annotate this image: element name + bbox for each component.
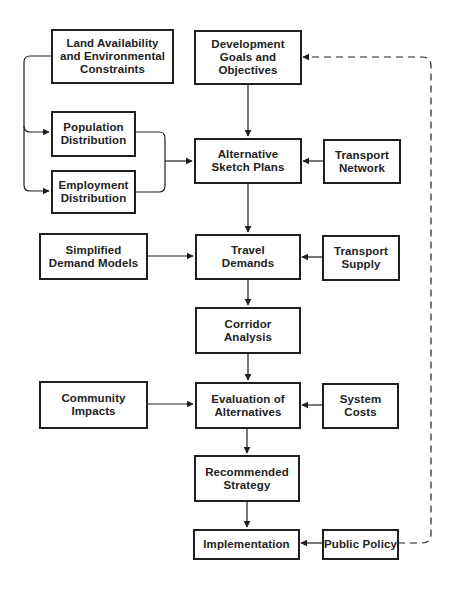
node-label: Land Availability and Environmental Cons… xyxy=(60,37,165,76)
node-transport-network: Transport Network xyxy=(323,139,401,184)
node-label: Development Goals and Objectives xyxy=(211,38,284,77)
node-label: Recommended Strategy xyxy=(205,466,289,492)
node-employment-distribution: Employment Distribution xyxy=(51,170,136,214)
edge-policy-goals-dashed xyxy=(303,57,431,543)
node-public-policy: Public Policy xyxy=(322,529,399,560)
node-label: Travel Demands xyxy=(222,244,274,270)
node-label: Community Impacts xyxy=(61,392,125,418)
edge-land-population xyxy=(24,56,51,132)
node-community-impacts: Community Impacts xyxy=(39,381,148,429)
planning-process-flowchart: Land Availability and Environmental Cons… xyxy=(0,0,453,591)
node-system-costs: System Costs xyxy=(322,383,399,429)
node-transport-supply: Transport Supply xyxy=(322,235,400,281)
node-label: Alternative Sketch Plans xyxy=(212,148,285,174)
node-alternative-sketch-plans: Alternative Sketch Plans xyxy=(194,138,302,184)
node-label: Population Distribution xyxy=(61,121,127,147)
connector-lines xyxy=(0,0,453,591)
edge-land-employment xyxy=(24,126,49,191)
node-evaluation-of-alternatives: Evaluation of Alternatives xyxy=(195,382,301,429)
node-corridor-analysis: Corridor Analysis xyxy=(195,307,301,354)
node-travel-demands: Travel Demands xyxy=(195,234,301,280)
node-label: Implementation xyxy=(203,538,289,551)
node-development-goals: Development Goals and Objectives xyxy=(194,30,302,85)
node-simplified-demand-models: Simplified Demand Models xyxy=(39,233,148,280)
node-label: Transport Network xyxy=(335,149,389,175)
node-label: Corridor Analysis xyxy=(224,318,272,344)
node-label: Simplified Demand Models xyxy=(49,244,138,270)
node-land-availability: Land Availability and Environmental Cons… xyxy=(51,29,174,84)
node-label: System Costs xyxy=(340,393,382,419)
node-implementation: Implementation xyxy=(193,529,300,560)
node-label: Evaluation of Alternatives xyxy=(211,393,285,419)
node-label: Public Policy xyxy=(324,538,397,551)
node-label: Transport Supply xyxy=(334,245,388,271)
node-recommended-strategy: Recommended Strategy xyxy=(194,455,300,502)
node-population-distribution: Population Distribution xyxy=(51,111,136,157)
edge-population-sketch xyxy=(135,132,165,192)
node-label: Employment Distribution xyxy=(58,179,128,205)
